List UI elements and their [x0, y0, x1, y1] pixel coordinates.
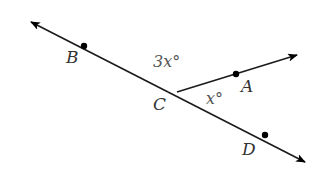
angle-ACD-label: x° — [206, 89, 223, 108]
point-d — [262, 132, 268, 138]
geometry-diagram: BCAD3x°x° — [0, 0, 329, 171]
angle-BCA-label: 3x° — [153, 52, 180, 71]
point-label-c: C — [153, 94, 166, 114]
line-bd-left-half — [31, 22, 168, 92]
point-label-d: D — [241, 139, 256, 159]
point-a — [233, 71, 239, 77]
line-bd-right-half — [168, 92, 305, 162]
point-label-a: A — [239, 76, 253, 96]
point-b — [81, 43, 87, 49]
point-label-b: B — [65, 47, 79, 67]
